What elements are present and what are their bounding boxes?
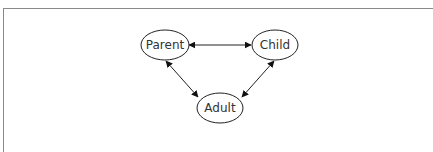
diagram-canvas: Parent Child Adult: [0, 0, 433, 152]
edge-child-adult: [242, 61, 274, 97]
node-label-parent: Parent: [146, 38, 185, 52]
node-child: Child: [252, 30, 298, 60]
node-parent: Parent: [141, 30, 189, 60]
node-label-child: Child: [260, 38, 290, 52]
node-adult: Adult: [197, 93, 243, 123]
node-label-adult: Adult: [204, 101, 236, 115]
edge-parent-adult: [166, 61, 198, 97]
